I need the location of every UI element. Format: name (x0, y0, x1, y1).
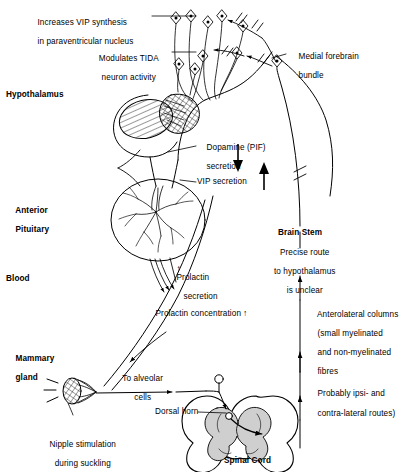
to-alveolar-line2: cells (134, 393, 151, 402)
annotation-prolactin-concentration-text: Prolactin concentration (156, 309, 242, 318)
annotation-anterolateral-columns: Anterolateral columns (small myelinated … (308, 300, 398, 428)
anterolateral-line2: (small myelinated (318, 329, 383, 338)
annotation-modulates-tida: Modulates TIDA neuron activity (78, 44, 170, 92)
anterolateral-line4: fibres (318, 367, 339, 376)
anterolateral-line3: and non-myelinated (318, 348, 392, 357)
annotation-nipple-stimulation: Nipple stimulation during suckling (26, 430, 130, 472)
region-label-spinal-cord: Spinal Cord (224, 456, 271, 466)
annotation-vip-synthesis-line1: Increases VIP synthesis (38, 18, 128, 27)
nipple-line2: during suckling (55, 459, 111, 468)
diagram-canvas: Increases VIP synthesis in paraventricul… (0, 0, 409, 472)
anterolateral-line6: contra-lateral routes) (318, 409, 396, 418)
anterolateral-line5: Probably ipsi- and (318, 389, 385, 399)
anterior-pituitary-line2: Pituitary (16, 225, 50, 234)
region-label-hypothalamus: Hypothalamus (6, 90, 64, 100)
nipple-line1: Nipple stimulation (50, 440, 116, 449)
annotation-medial-forebrain-line2: bundle (299, 71, 324, 80)
mammary-gland-line2: gland (16, 373, 38, 382)
region-label-mammary-gland: Mammary gland (6, 344, 54, 392)
annotation-dopamine-secretion: Dopamine (PIF) secretion (197, 133, 266, 181)
annotation-dopamine-line1: Dopamine (PIF) (207, 143, 266, 152)
brain-stem-note-line2: to hypothalamus (274, 267, 336, 276)
annotation-tida-line1: Modulates TIDA (99, 54, 159, 63)
annotation-to-alveolar-cells: To alveolar cells (104, 364, 172, 412)
annotation-tida-line2: neuron activity (102, 73, 156, 82)
arrow-up-icon-prolactin-concentration: ↑ (243, 308, 247, 318)
mammary-gland-line1: Mammary (16, 354, 55, 363)
annotation-vip-secretion: VIP secretion (197, 177, 247, 187)
annotation-brain-stem-note: Precise route to hypothalamus is unclear (248, 238, 352, 305)
brain-stem-note-line3: is unclear (287, 286, 323, 295)
to-alveolar-line1: To alveolar (122, 374, 163, 383)
region-label-brain-stem: Brain Stem (251, 228, 349, 238)
annotation-prolactin-concentration: Prolactin concentration↑ (146, 299, 247, 328)
annotation-medial-forebrain-line1: Medial forebrain (299, 52, 359, 61)
annotation-dopamine-line2: secretion (207, 162, 241, 171)
annotation-medial-forebrain-bundle: Medial forebrain bundle (289, 42, 359, 90)
arrow-up-icon-prolactin-secretion: ↑ (177, 264, 181, 273)
annotation-dorsal-horn: Dorsal horn (155, 407, 198, 417)
anterior-pituitary-line1: Anterior (15, 206, 48, 215)
annotation-prolactin-secretion-line1: Prolactin (177, 273, 210, 282)
brain-stem-note-line1: Precise route (280, 248, 330, 257)
anterolateral-line1: Anterolateral columns (317, 310, 398, 319)
region-label-anterior-pituitary: Anterior Pituitary (6, 196, 49, 244)
region-label-blood: Blood (6, 274, 30, 284)
